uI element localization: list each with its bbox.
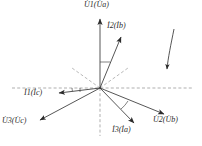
phasor-diagram: U̇1(U̇a) İ2(İb) İ1(İc) U̇3(U̇c) İ3(… xyxy=(0,0,202,146)
vector-u2 xyxy=(100,88,164,114)
label-u1: U̇1(U̇a) xyxy=(84,1,109,9)
arc-u1-i2-curve xyxy=(110,62,111,63)
dashed-ray-upper-left xyxy=(72,68,100,88)
vector-u3 xyxy=(40,88,100,120)
label-u2: U̇2(U̇b) xyxy=(153,116,178,124)
vector-i1 xyxy=(59,88,100,93)
phasor-vectors xyxy=(40,19,164,123)
label-i2: İ2(İb) xyxy=(107,22,126,30)
phasor-diagram-canvas xyxy=(0,0,202,146)
arc-i1-horizontal xyxy=(72,88,73,91)
label-i3: İ3(İa) xyxy=(112,126,131,134)
rotation-direction-arrow xyxy=(167,29,174,69)
arc-i3-u2 xyxy=(121,101,128,109)
vector-i3 xyxy=(100,88,134,123)
label-u3: U̇3(U̇c) xyxy=(2,117,26,125)
label-i1: İ1(İc) xyxy=(24,89,42,97)
reference-axes xyxy=(12,68,192,136)
